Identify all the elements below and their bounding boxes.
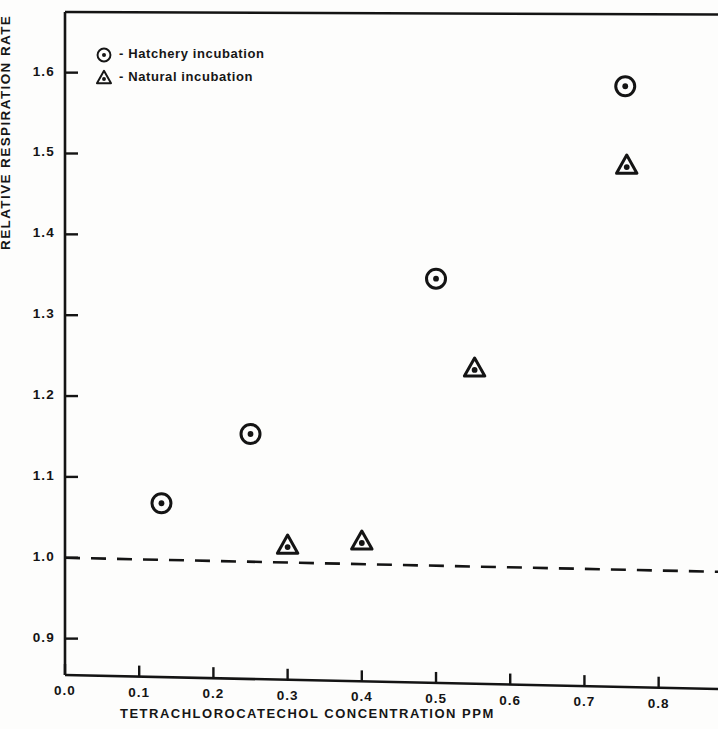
y-tick-label-1.6: 1.6 [11,64,55,79]
x-tick-label-0.7: 0.7 [564,694,604,709]
data-point-natural-0 [277,535,297,553]
legend-dash-0: - [119,46,124,61]
legend-text-1: Natural incubation [128,69,253,84]
axis-ticks [65,73,659,688]
x-tick-label-0.1: 0.1 [119,685,159,700]
axis-lines [65,12,718,689]
x-axis-title: TETRACHLOROCATECHOL CONCENTRATION PPM [120,706,495,721]
circle-dot-icon [95,46,113,64]
data-point-hatchery-0 [152,494,171,513]
y-tick-label-1.0: 1.0 [11,549,55,564]
x-tick-label-0.0: 0.0 [45,683,85,698]
x-tick-label-0.3: 0.3 [268,688,308,703]
data-point-hatchery-3 [616,77,635,96]
data-point-hatchery-2 [427,269,446,288]
data-point-natural-3 [617,155,637,173]
data-point-natural-2 [464,358,484,376]
x-tick-label-0.6: 0.6 [490,693,530,708]
x-tick-label-0.4: 0.4 [342,689,382,704]
legend-text-0: Hatchery incubation [128,46,264,61]
legend-label-natural: - Natural incubation [119,69,253,84]
data-point-hatchery-1 [241,424,260,443]
triangle-dot-icon [95,69,113,87]
y-axis-title: RELATIVE RESPIRATION RATE [0,0,13,250]
y-tick-label-1.3: 1.3 [11,306,55,321]
figure: RELATIVE RESPIRATION RATE TETRACHLOROCAT… [0,0,718,729]
y-tick-label-1.2: 1.2 [11,387,55,402]
y-tick-label-1.4: 1.4 [11,225,55,240]
scatter-plot [65,12,718,675]
x-tick-label-0.8: 0.8 [639,696,679,711]
plot-area [65,12,718,675]
legend-label-hatchery: - Hatchery incubation [119,46,265,61]
legend-dash-1: - [119,69,124,84]
data-points [152,77,637,553]
reference-line [65,558,718,572]
data-point-natural-1 [352,531,372,549]
x-tick-label-0.2: 0.2 [193,686,233,701]
y-tick-label-1.5: 1.5 [11,144,55,159]
y-tick-label-1.1: 1.1 [11,468,55,483]
y-tick-label-0.9: 0.9 [11,630,55,645]
x-tick-label-0.5: 0.5 [416,691,456,706]
